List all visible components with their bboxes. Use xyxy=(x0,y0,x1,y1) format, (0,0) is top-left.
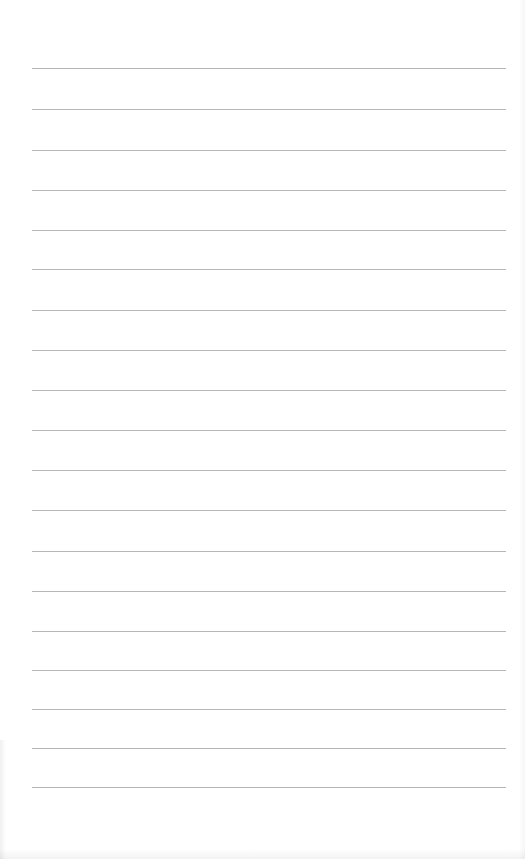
ruled-line xyxy=(32,269,506,270)
ruled-line xyxy=(32,670,506,671)
ruled-line xyxy=(32,68,506,69)
ruled-line xyxy=(32,109,506,110)
ruled-line xyxy=(32,591,506,592)
ruled-line xyxy=(32,470,506,471)
ruled-line xyxy=(32,190,506,191)
paper-edge-shadow xyxy=(0,849,525,859)
lined-paper xyxy=(0,0,525,859)
paper-edge-shadow xyxy=(519,0,525,859)
ruled-line xyxy=(32,310,506,311)
ruled-line xyxy=(32,150,506,151)
ruled-line xyxy=(32,551,506,552)
ruled-line xyxy=(32,350,506,351)
paper-edge-shadow xyxy=(0,740,6,859)
ruled-line xyxy=(32,748,506,749)
ruled-line xyxy=(32,430,506,431)
ruled-line xyxy=(32,230,506,231)
ruled-line xyxy=(32,510,506,511)
ruled-line xyxy=(32,709,506,710)
ruled-line xyxy=(32,787,506,788)
ruled-line xyxy=(32,631,506,632)
ruled-line xyxy=(32,390,506,391)
